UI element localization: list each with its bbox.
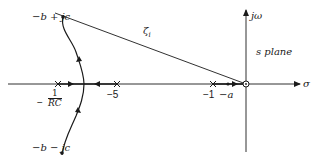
label-rc-minus: − xyxy=(37,98,43,108)
zero-center-dot xyxy=(245,83,247,85)
damping-subscript: i xyxy=(148,31,150,39)
label-imag-axis: jω xyxy=(251,11,262,21)
arrow-up-icon xyxy=(76,56,82,62)
label-upper-point: −b + jc xyxy=(32,12,70,22)
locus-upper-branch xyxy=(63,17,84,84)
damping-line xyxy=(55,13,246,84)
root-locus-diagram xyxy=(0,0,312,162)
label-zero-a: −a xyxy=(219,90,233,100)
label-pole-5: −5 xyxy=(107,90,118,100)
label-lower-point: −b − jc xyxy=(32,143,70,153)
label-real-axis: σ xyxy=(303,79,310,89)
rc-denominator: RC xyxy=(48,99,62,108)
label-pole-1: −1 xyxy=(203,90,214,100)
label-rc-fraction: 1 RC xyxy=(48,89,62,108)
arrow-down-icon xyxy=(75,107,81,113)
label-damping: ζi xyxy=(143,26,151,39)
label-s-plane: s plane xyxy=(256,47,292,57)
marker-a xyxy=(226,82,229,85)
